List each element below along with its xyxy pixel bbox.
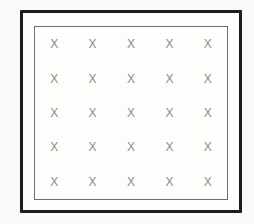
x-mark: X [150,96,188,130]
x-mark: X [35,130,73,164]
x-mark: X [112,27,150,61]
x-mark: X [150,27,188,61]
x-mark: X [112,61,150,95]
x-mark: X [35,96,73,130]
x-mark: X [189,27,227,61]
x-mark: X [73,27,111,61]
x-mark: X [150,130,188,164]
x-mark: X [189,61,227,95]
inner-frame: X X X X X X X X X X X X X X X X X X X X … [34,26,228,200]
x-mark: X [73,165,111,199]
figure: X X X X X X X X X X X X X X X X X X X X … [0,0,254,224]
x-mark: X [112,96,150,130]
x-mark: X [150,61,188,95]
x-mark: X [112,165,150,199]
x-mark: X [189,96,227,130]
outer-frame: X X X X X X X X X X X X X X X X X X X X … [20,10,242,213]
x-mark: X [35,165,73,199]
x-mark: X [35,27,73,61]
x-mark: X [73,130,111,164]
x-mark: X [150,165,188,199]
x-mark: X [189,165,227,199]
x-mark: X [73,96,111,130]
x-mark: X [73,61,111,95]
x-mark: X [35,61,73,95]
x-mark: X [112,130,150,164]
x-mark: X [189,130,227,164]
